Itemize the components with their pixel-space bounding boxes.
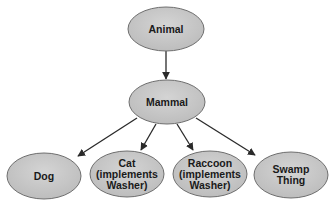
node-cat: Cat(implementsWasher)	[90, 151, 164, 197]
node-label: Animal	[148, 23, 183, 35]
arrow-mammal-to-dog	[78, 118, 137, 156]
node-dog: Dog	[7, 153, 81, 199]
class-hierarchy-diagram: AnimalMammalDogCat(implementsWasher)Racc…	[0, 0, 331, 206]
node-label: Dog	[34, 170, 54, 182]
node-label: Mammal	[146, 96, 188, 108]
node-swamp-thing: SwampThing	[254, 152, 328, 198]
node-label: Thing	[277, 174, 306, 186]
node-animal: Animal	[128, 7, 204, 51]
arrow-mammal-to-swamp-thing	[196, 118, 255, 155]
node-raccoon: Raccoon(implementsWasher)	[173, 151, 247, 197]
arrow-mammal-to-cat	[141, 124, 156, 150]
node-mammal: Mammal	[129, 80, 205, 124]
arrow-mammal-to-raccoon	[177, 124, 193, 150]
node-label: Washer)	[106, 179, 147, 191]
nodes-layer: AnimalMammalDogCat(implementsWasher)Racc…	[7, 7, 328, 199]
node-label: Washer)	[189, 179, 230, 191]
